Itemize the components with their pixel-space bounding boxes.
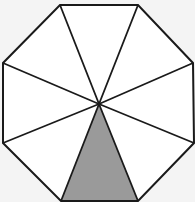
center-point: [97, 102, 101, 106]
octagon-diagram: [0, 0, 195, 202]
